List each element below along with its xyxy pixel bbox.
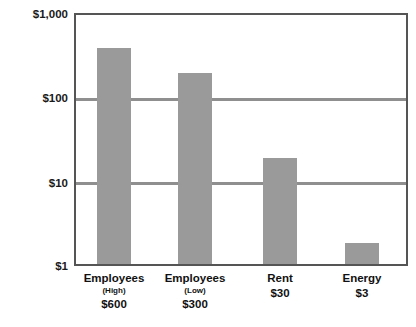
x-category-energy: Energy $3 xyxy=(308,272,416,301)
y-tick-label-100: $100 xyxy=(42,92,68,104)
y-tick-label-1000: $1,000 xyxy=(33,8,68,20)
x-category-name: Energy xyxy=(308,272,416,285)
y-tick-label-10: $10 xyxy=(49,177,68,189)
bar-chart-figure: Cost per Year per Square Foot $1,000 $10… xyxy=(0,0,416,327)
bar-employees-high xyxy=(97,48,131,264)
y-tick-label-1: $1 xyxy=(55,260,68,272)
bar-energy xyxy=(345,243,379,264)
bar-rent xyxy=(263,158,297,264)
plot-area xyxy=(74,13,408,266)
bar-employees-low xyxy=(178,73,212,264)
x-category-value: $3 xyxy=(308,286,416,301)
